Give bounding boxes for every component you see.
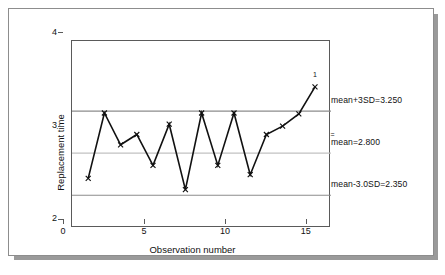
x-tick-mark-15 bbox=[306, 219, 307, 224]
data-line bbox=[88, 87, 315, 190]
y-tick-label-3: 3 bbox=[39, 121, 57, 130]
y-tick-mark-4 bbox=[58, 32, 63, 33]
data-marker bbox=[134, 132, 139, 137]
data-marker bbox=[313, 84, 318, 89]
center-line-label-rest: ean=2.800 bbox=[338, 137, 380, 147]
center-line-label-overline-char: m bbox=[331, 137, 338, 147]
y-tick-mark-3 bbox=[58, 126, 63, 127]
screenshot-root: Replacement time 4 3 2 bbox=[0, 0, 445, 275]
upper-control-limit-label: mean+3SD=3.250 bbox=[331, 95, 402, 105]
plot-area: 1 bbox=[71, 40, 330, 227]
lower-control-limit-label: mean-3.0SD=2.350 bbox=[331, 179, 407, 189]
out-of-control-point-label: 1 bbox=[313, 71, 317, 78]
x-axis-title: Observation number bbox=[63, 244, 322, 255]
x-tick-label-5: 5 bbox=[132, 227, 156, 236]
center-line-label: mean=2.800 bbox=[331, 137, 380, 147]
x-tick-mark-10 bbox=[225, 219, 226, 224]
x-tick-label-10: 10 bbox=[213, 227, 237, 236]
data-marker bbox=[280, 124, 285, 129]
data-marker bbox=[296, 111, 301, 116]
y-tick-label-4: 4 bbox=[39, 28, 57, 37]
y-axis-title-wrapper: Replacement time bbox=[35, 69, 49, 199]
x-tick-label-0: 0 bbox=[51, 227, 75, 236]
x-tick-label-15: 15 bbox=[294, 227, 318, 236]
y-tick-label-2: 2 bbox=[39, 214, 57, 223]
figure-card: Replacement time 4 3 2 bbox=[8, 8, 434, 256]
chart-svg bbox=[72, 41, 331, 228]
x-tick-mark-5 bbox=[144, 219, 145, 224]
x-tick-mark-0 bbox=[63, 219, 64, 224]
data-markers bbox=[86, 84, 318, 192]
